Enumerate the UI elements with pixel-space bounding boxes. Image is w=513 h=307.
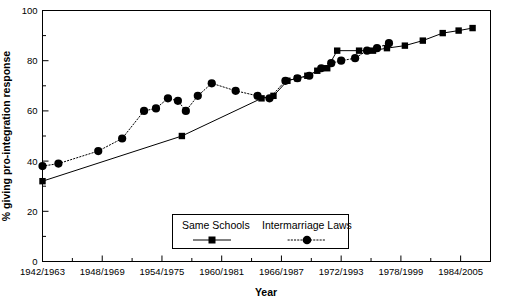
chart-svg: 020406080100 1942/19631948/19691954/1975… bbox=[0, 0, 513, 307]
series-line bbox=[43, 43, 389, 166]
legend: Same Schools Intermarriage Laws bbox=[173, 215, 352, 249]
x-axis: 1942/19631948/19691954/19751960/19811966… bbox=[20, 256, 490, 277]
x-tick-label: 1948/1969 bbox=[80, 266, 125, 277]
y-tick-label: 80 bbox=[27, 55, 38, 66]
y-tick-label: 100 bbox=[22, 5, 38, 16]
series-intermarriage-laws bbox=[38, 39, 393, 170]
data-point bbox=[281, 77, 289, 85]
data-point bbox=[232, 87, 240, 95]
series-line bbox=[43, 28, 473, 181]
data-point bbox=[152, 104, 160, 112]
legend-marker-square bbox=[209, 237, 216, 244]
data-point bbox=[94, 147, 102, 155]
data-point bbox=[363, 47, 371, 55]
data-point bbox=[373, 44, 381, 52]
data-point bbox=[351, 54, 359, 62]
chart-figure: 020406080100 1942/19631948/19691954/1975… bbox=[0, 0, 513, 307]
data-point bbox=[182, 107, 190, 115]
data-point bbox=[164, 94, 172, 102]
data-point bbox=[179, 133, 185, 139]
legend-label-intermarriage-laws: Intermarriage Laws bbox=[262, 219, 352, 231]
data-point bbox=[402, 42, 408, 48]
legend-marker-circle bbox=[303, 236, 312, 245]
data-point bbox=[253, 92, 261, 100]
data-point bbox=[265, 94, 273, 102]
data-point bbox=[327, 59, 335, 67]
data-point bbox=[39, 178, 45, 184]
y-tick-label: 20 bbox=[27, 206, 38, 217]
data-point bbox=[455, 27, 461, 33]
x-tick-label: 1960/1981 bbox=[199, 266, 244, 277]
data-point bbox=[420, 37, 426, 43]
data-point bbox=[440, 30, 446, 36]
data-point bbox=[334, 47, 340, 53]
x-tick-label: 1978/1999 bbox=[378, 266, 423, 277]
x-tick-label: 1966/1987 bbox=[259, 266, 304, 277]
data-point bbox=[337, 57, 345, 65]
x-axis-title: Year bbox=[255, 286, 277, 298]
data-point bbox=[317, 64, 325, 72]
series-same-schools bbox=[39, 25, 475, 185]
y-tick-label: 40 bbox=[27, 156, 38, 167]
y-axis: 020406080100 bbox=[22, 5, 49, 267]
data-point bbox=[356, 47, 362, 53]
y-axis-title: % giving pro-integration response bbox=[0, 51, 12, 222]
x-tick-label: 1942/1963 bbox=[20, 266, 65, 277]
data-point bbox=[469, 25, 475, 31]
data-point bbox=[208, 79, 216, 87]
data-point bbox=[118, 134, 126, 142]
data-point bbox=[174, 97, 182, 105]
legend-label-same-schools: Same Schools bbox=[182, 219, 250, 231]
series-container bbox=[38, 25, 475, 185]
data-point bbox=[385, 39, 393, 47]
data-point bbox=[38, 162, 46, 170]
data-point bbox=[140, 107, 148, 115]
x-tick-label: 1984/2005 bbox=[438, 266, 483, 277]
data-point bbox=[54, 160, 62, 168]
data-point bbox=[293, 74, 301, 82]
data-point bbox=[194, 92, 202, 100]
x-tick-label: 1954/1975 bbox=[140, 266, 185, 277]
x-tick-label: 1972/1993 bbox=[319, 266, 364, 277]
y-tick-label: 60 bbox=[27, 105, 38, 116]
data-point bbox=[305, 72, 313, 80]
